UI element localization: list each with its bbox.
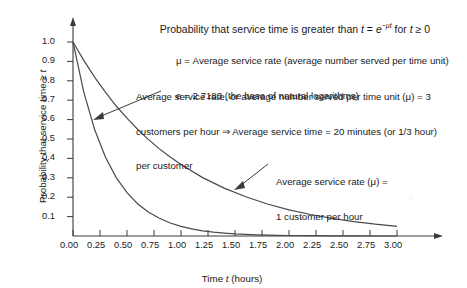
x-tick-label-0.00: 0.00 [60, 240, 78, 252]
annotation-mu3-line-1: Average service rate, or average number … [136, 91, 437, 103]
y-axis-title-pre: Probability that service time ≥ [37, 73, 48, 204]
x-tick-label-1.50: 1.50 [222, 240, 240, 252]
x-axis-title-post: (hours) [229, 273, 263, 284]
x-tick-label-2.00: 2.00 [276, 240, 294, 252]
y-axis-title-var: t [37, 70, 48, 73]
x-tick-label-2.75: 2.75 [357, 240, 375, 252]
annotation-mu3-line-2: customers per hour ⇒ Average service tim… [136, 126, 437, 138]
x-tick-label-0.50: 0.50 [114, 240, 132, 252]
annotation-mu1-line-2: 1 customer per hour [276, 211, 388, 223]
x-tick-label-0.75: 0.75 [141, 240, 159, 252]
x-tick-label-1.75: 1.75 [249, 240, 267, 252]
annotation-mu1-line-1: Average service rate (μ) = [276, 176, 388, 188]
x-tick-label-1.00: 1.00 [168, 240, 186, 252]
y-axis-title: Probability that service time ≥ t [26, 70, 59, 214]
x-tick-label-2.50: 2.50 [330, 240, 348, 252]
x-axis-title-pre: Time [202, 273, 226, 284]
x-axis-arrowhead [434, 233, 443, 239]
chart-title-exponent: −μt [382, 22, 392, 29]
annotation-mu-definition-line-1: μ = Average service rate (average number… [176, 55, 449, 67]
x-tick-label-2.25: 2.25 [303, 240, 321, 252]
x-tick-label-1.25: 1.25 [195, 240, 213, 252]
y-tick-marks [67, 42, 73, 217]
y-tick-label-0.9: 0.9 [42, 55, 55, 67]
x-axis-title: Time t (hours) [191, 261, 262, 288]
annotation-mu1-callout: Average service rate (μ) = 1 customer pe… [276, 153, 388, 245]
x-tick-label-0.25: 0.25 [87, 240, 105, 252]
y-tick-label-1.0: 1.0 [42, 36, 55, 48]
x-tick-label-3.00: 3.00 [384, 240, 402, 252]
y-axis-arrowhead [70, 17, 76, 26]
